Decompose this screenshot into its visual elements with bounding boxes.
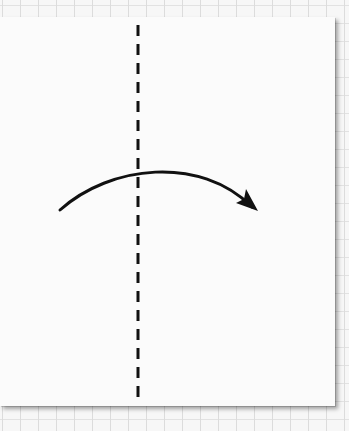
arrowhead-icon <box>236 189 258 211</box>
fold-arrow-curve <box>60 172 252 210</box>
fold-diagram <box>0 0 349 431</box>
